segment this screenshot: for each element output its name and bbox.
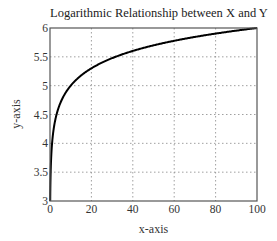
y-tick-label: 4.5 — [34, 109, 48, 121]
chart-figure: Logarithmic Relationship between X and Y… — [0, 0, 277, 241]
grid-lines — [50, 28, 257, 201]
y-tick-label: 4 — [42, 137, 48, 149]
y-tick-label: 5.5 — [34, 51, 48, 63]
x-tick-label: 80 — [210, 203, 222, 215]
x-tick-label: 40 — [127, 203, 139, 215]
data-line — [50, 28, 257, 201]
y-axis-label: y-axis — [9, 99, 24, 128]
x-axis-label: x-axis — [50, 222, 257, 237]
y-tick-label: 6 — [42, 22, 48, 34]
x-tick-label: 0 — [47, 203, 53, 215]
axes-frame — [50, 28, 257, 201]
x-tick-label: 60 — [168, 203, 180, 215]
y-tick-label: 5 — [42, 80, 48, 92]
x-tick-label: 20 — [86, 203, 98, 215]
x-tick-label: 100 — [248, 203, 265, 215]
y-tick-label: 3.5 — [34, 166, 48, 178]
